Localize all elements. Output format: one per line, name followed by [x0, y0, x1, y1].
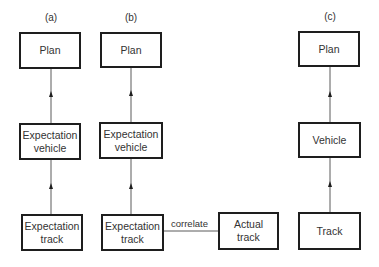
- correlate-edge-label: correlate: [171, 218, 208, 229]
- node-label: Expectation vehicle: [104, 128, 159, 154]
- node-label: Track: [317, 225, 343, 238]
- node-label: Plan: [318, 43, 339, 56]
- panel-b-track-node: Expectation track: [101, 214, 164, 251]
- arrowhead-icon: [129, 90, 133, 96]
- arrowhead-icon: [129, 183, 133, 189]
- node-label: Expectation track: [105, 220, 160, 246]
- diagram-canvas: (a) Plan Expectation vehicle Expectation…: [0, 0, 379, 267]
- panel-c-track-node: Track: [298, 212, 361, 250]
- node-label: Plan: [39, 44, 60, 57]
- arrowhead-icon: [49, 91, 53, 97]
- node-label: Plan: [120, 44, 141, 57]
- panel-a-vehicle-node: Expectation vehicle: [19, 123, 81, 160]
- node-label: Actual track: [234, 218, 263, 244]
- panel-b-label: (b): [125, 12, 137, 23]
- panel-a-plan-node: Plan: [19, 32, 81, 69]
- panel-b-actual-track-node: Actual track: [218, 212, 279, 250]
- panel-a-track-node: Expectation track: [21, 214, 83, 251]
- panel-a-label: (a): [45, 12, 57, 23]
- panel-b-plan-node: Plan: [100, 32, 162, 68]
- panel-c-plan-node: Plan: [298, 31, 360, 67]
- arrowhead-icon: [328, 181, 332, 187]
- panel-c-vehicle-node: Vehicle: [298, 122, 361, 158]
- node-label: Expectation track: [25, 220, 80, 246]
- node-label: Vehicle: [313, 134, 347, 147]
- arrowhead-icon: [328, 91, 332, 97]
- panel-c-label: (c): [324, 11, 336, 22]
- arrowhead-icon: [49, 183, 53, 189]
- node-label: Expectation vehicle: [23, 129, 78, 155]
- panel-b-vehicle-node: Expectation vehicle: [99, 122, 163, 159]
